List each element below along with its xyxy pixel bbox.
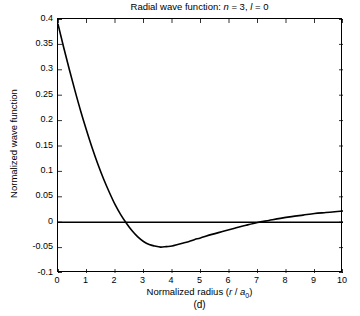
x-tick-label: 8: [273, 276, 297, 285]
y-axis-title: Normalized wave function: [8, 64, 19, 224]
y-tick-label: 0.3: [40, 64, 53, 73]
y-tick-label: 0.05: [35, 191, 53, 200]
wave-function-curve: [58, 24, 343, 247]
plot-area: [57, 18, 342, 272]
chart-title: Radial wave function: n = 3, l = 0: [57, 1, 342, 12]
plot-canvas: [58, 19, 343, 273]
x-tick-label: 3: [131, 276, 155, 285]
x-tick-label: 9: [302, 276, 326, 285]
x-axis-title: Normalized radius (r / a0): [57, 286, 342, 299]
xlabel-suffix: ): [249, 286, 252, 297]
xlabel-prefix: Normalized radius (: [147, 286, 229, 297]
x-tick-label: 2: [102, 276, 126, 285]
x-tick-label: 5: [188, 276, 212, 285]
x-tick-label: 6: [216, 276, 240, 285]
y-tick-label: 0.1: [40, 166, 53, 175]
x-tick-label: 10: [330, 276, 354, 285]
x-tick-label: 7: [245, 276, 269, 285]
y-tick-label: 0.4: [40, 14, 53, 23]
x-tick-label: 0: [45, 276, 69, 285]
title-prefix: Radial wave function:: [131, 1, 224, 12]
y-tick-label: 0.15: [35, 141, 53, 150]
figure-panel: Radial wave function: n = 3, l = 0 -0.1-…: [0, 0, 360, 316]
tick-marks: [58, 19, 343, 273]
title-n-value: = 3,: [229, 1, 250, 12]
y-tick-label: 0: [48, 217, 53, 226]
xlabel-slash: /: [232, 286, 240, 297]
y-tick-label: 0.2: [40, 115, 53, 124]
x-tick-label: 4: [159, 276, 183, 285]
figure-caption: (d): [57, 299, 342, 310]
y-tick-label: 0.25: [35, 90, 53, 99]
title-l-value: = 0: [252, 1, 268, 12]
y-tick-label: -0.05: [32, 242, 53, 251]
y-tick-label: 0.35: [35, 39, 53, 48]
x-tick-label: 1: [74, 276, 98, 285]
